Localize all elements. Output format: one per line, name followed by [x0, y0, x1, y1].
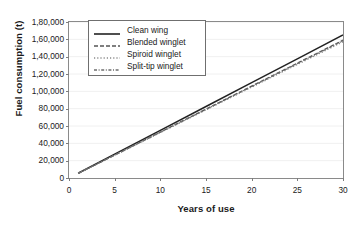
y-tick-label: 20,000: [18, 156, 64, 164]
x-tick-label: 10: [145, 186, 175, 194]
x-tick-mark: [343, 178, 344, 181]
legend-label: Split-tip winglet: [122, 62, 183, 71]
legend-label: Blended winglet: [122, 38, 186, 47]
x-tick-label: 30: [328, 186, 352, 194]
x-tick-label: 25: [282, 186, 312, 194]
legend-line-swatch: [92, 49, 122, 59]
y-tick-label: 0: [18, 174, 64, 182]
y-tick-label: 1,60,000: [18, 35, 64, 43]
y-tick-mark: [66, 91, 69, 92]
y-tick-mark: [66, 126, 69, 127]
y-tick-label: 1,20,000: [18, 70, 64, 78]
x-tick-mark: [69, 178, 70, 181]
legend-item: Spiroid winglet: [92, 48, 201, 60]
chart-legend: Clean wingBlended wingletSpiroid winglet…: [88, 20, 206, 76]
y-tick-label: 1,40,000: [18, 52, 64, 60]
legend-item: Blended winglet: [92, 36, 201, 48]
legend-line-swatch: [92, 25, 122, 35]
y-tick-mark: [66, 22, 69, 23]
y-tick-label: 1,80,000: [18, 18, 64, 26]
x-tick-label: 0: [54, 186, 84, 194]
y-tick-label: 1,00,000: [18, 87, 64, 95]
legend-line-swatch: [92, 61, 122, 71]
y-tick-label: 80,000: [18, 104, 64, 112]
y-tick-mark: [66, 109, 69, 110]
y-tick-mark: [66, 74, 69, 75]
legend-item: Clean wing: [92, 24, 201, 36]
x-tick-mark: [252, 178, 253, 181]
x-tick-label: 20: [237, 186, 267, 194]
y-tick-mark: [66, 161, 69, 162]
legend-item: Split-tip winglet: [92, 60, 201, 72]
y-tick-mark: [66, 143, 69, 144]
fuel-consumption-line-chart: Fuel consumption (t) 020,00040,00060,000…: [0, 0, 352, 226]
legend-line-swatch: [92, 37, 122, 47]
x-axis-title: Years of use: [68, 203, 344, 214]
y-tick-label: 60,000: [18, 122, 64, 130]
y-tick-mark: [66, 39, 69, 40]
x-tick-mark: [115, 178, 116, 181]
x-tick-mark: [206, 178, 207, 181]
x-tick-mark: [297, 178, 298, 181]
x-tick-mark: [160, 178, 161, 181]
x-tick-label: 5: [100, 186, 130, 194]
legend-label: Spiroid winglet: [122, 50, 181, 59]
x-tick-label: 15: [191, 186, 221, 194]
x-axis-tick-labels: 051015202530: [0, 186, 352, 200]
y-tick-label: 40,000: [18, 139, 64, 147]
legend-label: Clean wing: [122, 26, 168, 35]
y-tick-mark: [66, 57, 69, 58]
